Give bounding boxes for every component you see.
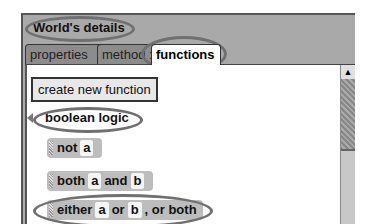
param-slot-a[interactable]: a [95, 202, 108, 218]
tile-either-or[interactable]: eitheraorb, or both [47, 200, 203, 220]
tab-methods[interactable]: method : [97, 44, 157, 65]
collapse-triangle-icon[interactable] [27, 113, 33, 123]
scroll-thumb[interactable] [341, 79, 355, 151]
tile-text: either [57, 202, 92, 217]
tab-functions[interactable]: functions [151, 44, 221, 65]
group-label-boolean-logic[interactable]: boolean logic [45, 110, 129, 125]
tab-properties[interactable]: properties [25, 44, 103, 65]
tile-not[interactable]: nota [47, 138, 102, 158]
tile-text: or [112, 202, 125, 217]
scroll-up-arrow-icon[interactable]: ▲ [341, 65, 355, 79]
tile-both-and[interactable]: bothaandb [47, 171, 153, 191]
tile-text: , or both [145, 202, 197, 217]
tile-text: and [104, 173, 127, 188]
functions-list: create new function boolean logic nota b… [25, 64, 355, 224]
create-new-function-button[interactable]: create new function [31, 77, 158, 102]
vertical-scrollbar[interactable]: ▲ [340, 65, 355, 224]
param-slot-a[interactable]: a [88, 173, 101, 189]
tile-text: not [57, 140, 77, 155]
param-slot-b[interactable]: b [131, 173, 145, 189]
param-slot-b[interactable]: b [128, 202, 142, 218]
panel-title: World's details [33, 20, 125, 35]
param-slot-a[interactable]: a [80, 140, 93, 156]
left-border [25, 65, 27, 224]
details-panel: World's details properties method : func… [21, 13, 355, 224]
tile-text: both [57, 173, 85, 188]
